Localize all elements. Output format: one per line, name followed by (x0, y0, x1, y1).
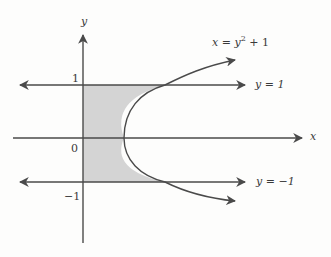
x-axis-label: x (310, 131, 316, 142)
parabola-lower (124, 138, 235, 201)
line-bottom-label: y = −1 (256, 176, 295, 187)
graph-canvas (0, 0, 331, 257)
line-top-label: y = 1 (255, 79, 284, 90)
parabola-label-lhs: x = y (212, 36, 241, 49)
tick-label-neg1: −1 (64, 191, 80, 202)
y-axis-label: y (81, 16, 87, 27)
diagram: y x 1 0 −1 x = y2 + 1 y = 1 y = −1 (0, 0, 331, 257)
parabola-label: x = y2 + 1 (212, 35, 269, 48)
tick-label-1: 1 (72, 73, 79, 84)
parabola-label-rhs: + 1 (246, 36, 269, 49)
parabola-upper (124, 60, 235, 138)
tick-label-origin: 0 (71, 143, 78, 154)
